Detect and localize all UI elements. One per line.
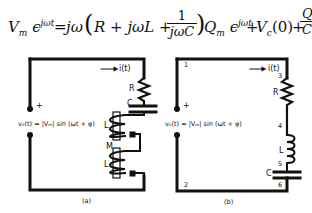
node-1: 1	[184, 61, 188, 69]
resistor-a	[139, 78, 149, 106]
label-l1-a: L	[104, 121, 108, 130]
node-6: 6	[278, 181, 282, 189]
wire-a-bottom	[30, 135, 144, 190]
label-m-a: M	[106, 142, 113, 151]
terminal-b-top	[174, 106, 180, 112]
circuits-drawing	[0, 0, 312, 213]
node-4: 4	[278, 122, 282, 130]
label-r-b: R	[273, 88, 279, 97]
inductor-a2-coil	[110, 151, 125, 174]
caption-b: (b)	[224, 198, 233, 206]
label-l2-a: L	[104, 160, 108, 169]
node-3: 3	[278, 72, 282, 80]
resistor-b	[282, 78, 292, 135]
wire-b-bottom	[177, 135, 287, 191]
plus-sign-b: +	[183, 101, 190, 110]
label-c-a: C	[127, 99, 133, 108]
label-l-b: L	[279, 146, 283, 155]
caption-a: (a)	[82, 197, 91, 205]
current-arrow-b-head	[262, 67, 266, 71]
inductor-a1-coil	[110, 115, 125, 137]
terminal-a-bottom	[27, 132, 33, 138]
terminal-a-top	[27, 106, 33, 112]
label-c-b: C	[266, 169, 272, 178]
plus-sign-a: +	[36, 101, 43, 110]
node-2: 2	[184, 181, 188, 189]
label-r-a: R	[129, 84, 135, 93]
terminal-b-bottom	[174, 132, 180, 138]
current-arrow-a-head	[114, 67, 118, 71]
source-label-b: v₀(t) = |Vₘ| sin (ωt + φ)	[165, 120, 242, 128]
node-5: 5	[278, 160, 282, 168]
inductor-b-coil	[287, 135, 295, 163]
current-label-a: i(t)	[119, 64, 131, 73]
source-label-a: v₀(t) = |Vₘ| sin (ωt + φ)	[18, 120, 95, 128]
